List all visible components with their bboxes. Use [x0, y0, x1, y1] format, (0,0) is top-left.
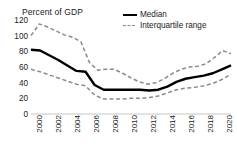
y-axis-tick-labels: 120100806040200 [2, 0, 28, 150]
y-tick-120: 120 [2, 16, 28, 25]
x-tick-2002: 2002 [54, 115, 63, 133]
x-axis-tick-labels: 2000200220042006200820102012201420162018… [31, 115, 231, 150]
legend-item-median: Median [122, 9, 234, 20]
y-tick-0: 0 [2, 110, 28, 119]
x-tick-2012: 2012 [149, 115, 158, 133]
series-line-median [31, 50, 231, 91]
chart-plot-svg [31, 20, 231, 114]
y-tick-60: 60 [2, 63, 28, 72]
y-tick-20: 20 [2, 94, 28, 103]
x-tick-2018: 2018 [206, 115, 215, 133]
x-tick-2006: 2006 [92, 115, 101, 133]
x-tick-2020: 2020 [225, 115, 234, 133]
x-tick-2008: 2008 [111, 115, 120, 133]
y-tick-40: 40 [2, 78, 28, 87]
x-tick-2014: 2014 [168, 115, 177, 133]
x-tick-2004: 2004 [73, 115, 82, 133]
y-tick-100: 100 [2, 31, 28, 40]
x-tick-2000: 2000 [35, 115, 44, 133]
chart-plot-area [31, 20, 231, 114]
series-line-interquartile-range-lower [31, 69, 231, 99]
x-tick-2016: 2016 [187, 115, 196, 133]
chart-axis-title: Percent of GDP [22, 7, 83, 17]
y-tick-80: 80 [2, 47, 28, 56]
legend-label-median: Median [140, 10, 167, 19]
chart-figure: Percent of GDP Median Interquartile rang… [0, 0, 237, 150]
legend-line-solid-icon [122, 11, 138, 19]
x-tick-2010: 2010 [130, 115, 139, 133]
